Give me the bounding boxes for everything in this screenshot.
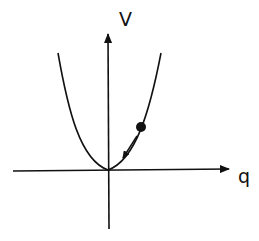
v-axis-label: V <box>119 10 132 29</box>
q-axis-label: q <box>238 167 250 186</box>
potential-diagram: V q <box>0 0 259 241</box>
ball-particle <box>136 122 146 132</box>
v-axis <box>108 34 109 229</box>
motion-arrow <box>123 136 137 158</box>
diagram-canvas <box>0 0 259 241</box>
potential-curve <box>58 53 161 170</box>
q-axis <box>13 169 229 171</box>
